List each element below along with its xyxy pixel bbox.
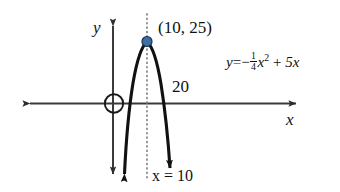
equation-fraction: 14 [250,51,257,72]
equation-equals: = [233,54,241,70]
vertex-point-marker [142,37,152,47]
x-axis-label: x [286,111,294,128]
equation-lhs: y [226,54,233,70]
equation-label: y=−14x2 + 5x [226,51,299,72]
x-intercept-label: 20 [172,78,189,95]
equation-linear-term: 5x [285,54,299,70]
equation-minus: − [241,54,249,70]
equation-exponent: 2 [264,52,269,63]
axis-of-symmetry-label: x = 10 [152,168,193,184]
fraction-numerator: 1 [250,51,257,61]
fraction-denominator: 4 [250,61,257,72]
vertex-coordinate-label: (10, 25) [158,19,212,36]
y-axis-label: y [93,19,101,36]
equation-plus: + [273,54,281,70]
